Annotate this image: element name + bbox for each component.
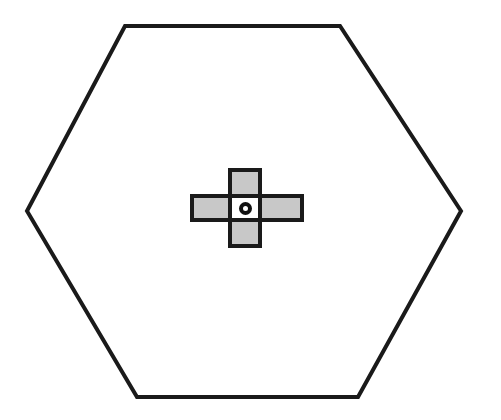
- cross-tile-center[interactable]: [228, 194, 262, 222]
- cross-tile-bottom[interactable]: [228, 218, 262, 248]
- cross-tile-left[interactable]: [190, 194, 232, 222]
- ring-marker-icon: [239, 202, 252, 215]
- cross-tile-right[interactable]: [258, 194, 304, 222]
